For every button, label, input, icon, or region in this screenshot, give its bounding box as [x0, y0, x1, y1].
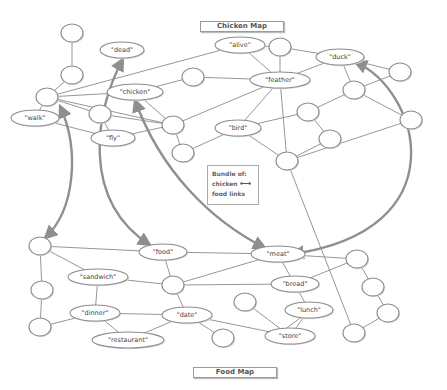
- node-label: "restaurant": [108, 336, 148, 344]
- edge-feather-c_bot: [280, 80, 287, 161]
- node-shape: [400, 111, 422, 129]
- node-shape: [297, 103, 319, 121]
- legend-line-3: food links: [212, 189, 254, 199]
- node-shape: [172, 144, 194, 162]
- concept-node-fly: "fly": [91, 130, 136, 147]
- empty-node: [212, 329, 235, 348]
- concept-node-sandwich: "sandwich": [68, 269, 129, 286]
- empty-node: [89, 105, 112, 124]
- concept-node-lunch: "lunch": [285, 302, 334, 319]
- concept-node-bird: "bird": [215, 120, 262, 137]
- empty-node: [31, 281, 54, 300]
- empty-node: [346, 250, 369, 269]
- empty-node: [61, 24, 84, 43]
- empty-node: [377, 304, 400, 323]
- concept-node-restaurant: "restaurant": [92, 332, 165, 349]
- node-shape: [212, 329, 234, 347]
- empty-node: [162, 276, 185, 295]
- empty-node: [343, 81, 366, 100]
- node-shape: [343, 324, 365, 342]
- node-label: "dead": [111, 46, 133, 54]
- node-label: "walk": [25, 114, 46, 122]
- node-shape: [61, 24, 83, 42]
- double-arrow-icon: ⟷: [240, 179, 251, 189]
- empty-node: [29, 318, 52, 337]
- node-shape: [346, 250, 368, 268]
- node-shape: [162, 276, 184, 294]
- node-label: "bird": [229, 124, 248, 132]
- empty-node: [297, 103, 320, 122]
- node-shape: [362, 278, 384, 296]
- empty-node: [182, 68, 205, 87]
- bundle-legend: Bundle of: chicken⟷ food links: [207, 165, 259, 205]
- legend-chicken-label: chicken: [212, 180, 238, 187]
- node-shape: [234, 293, 256, 311]
- node-label: "fly": [106, 134, 120, 142]
- concept-node-dinner: "dinner": [70, 305, 121, 322]
- concept-node-alive: "alive": [215, 37, 266, 54]
- node-shape: [343, 81, 365, 99]
- node-shape: [162, 116, 184, 134]
- node-label: "lunch": [297, 306, 321, 314]
- node-shape: [31, 281, 53, 299]
- empty-node: [343, 324, 366, 343]
- empty-node: [36, 88, 59, 107]
- node-label: "dinner": [82, 309, 109, 317]
- concept-node-store: "store": [265, 328, 316, 345]
- concept-node-walk: "walk": [11, 110, 60, 127]
- empty-node: [389, 63, 412, 82]
- node-label: "bread": [283, 280, 308, 288]
- node-shape: [377, 304, 399, 322]
- node-shape: [182, 68, 204, 86]
- empty-node: [276, 152, 299, 171]
- node-shape: [36, 88, 58, 106]
- empty-node: [172, 144, 195, 163]
- node-shape: [276, 152, 298, 170]
- node-shape: [319, 130, 341, 148]
- concept-node-bread: "bread": [271, 276, 320, 293]
- node-shape: [89, 105, 111, 123]
- concept-node-meat: "meat": [251, 246, 306, 263]
- node-label: "food": [153, 248, 173, 256]
- node-shape: [389, 63, 411, 81]
- empty-node: [162, 116, 185, 135]
- empty-node: [362, 278, 385, 297]
- concept-node-dead: "dead": [100, 42, 145, 59]
- empty-node: [29, 237, 52, 256]
- node-label: "date": [177, 311, 198, 319]
- node-label: "chicken": [120, 88, 151, 96]
- node-label: "store": [279, 332, 301, 340]
- node-shape: [29, 318, 51, 336]
- node-label: "meat": [267, 250, 290, 258]
- edge-c_r2-c_bot: [287, 120, 411, 161]
- empty-node: [269, 38, 292, 57]
- node-label: "alive": [229, 41, 250, 49]
- node-shape: [269, 38, 291, 56]
- node-label: "feather": [265, 76, 295, 84]
- empty-node: [400, 111, 423, 130]
- node-shape: [29, 237, 51, 255]
- concept-node-feather: "feather": [250, 72, 311, 89]
- legend-line-1: Bundle of:: [212, 169, 254, 179]
- node-label: "sandwich": [80, 273, 116, 281]
- node-shape: [61, 66, 83, 84]
- empty-node: [319, 130, 342, 149]
- concept-node-food: "food": [139, 244, 188, 261]
- concept-node-date: "date": [162, 307, 213, 324]
- legend-line-2: chicken⟷: [212, 179, 254, 189]
- concept-node-chicken: "chicken": [107, 84, 164, 101]
- node-label: "duck": [329, 53, 351, 61]
- empty-node: [234, 293, 257, 312]
- food-map-title: Food Map: [193, 367, 277, 378]
- empty-node: [61, 66, 84, 85]
- concept-node-duck: "duck": [316, 49, 365, 66]
- chicken-map-title: Chicken Map: [200, 21, 284, 32]
